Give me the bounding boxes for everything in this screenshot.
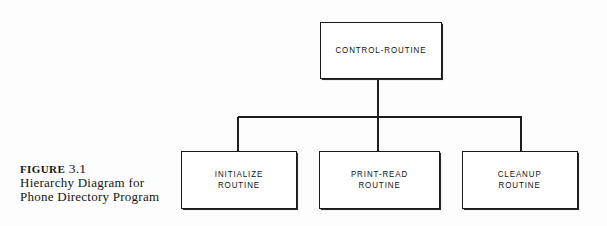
caption-line-3: Phone Directory Program	[20, 190, 180, 204]
connector-drop-right	[520, 117, 521, 152]
connector-bus	[238, 116, 522, 117]
caption-figure-line: FIGURE 3.1	[20, 162, 180, 176]
node-initialize-routine: INITIALIZE ROUTINE	[181, 151, 297, 209]
connector-drop-middle	[377, 117, 378, 152]
caption-figure-label: FIGURE	[20, 163, 65, 175]
caption-figure-number: 3.1	[69, 161, 86, 176]
caption-line-2: Hierarchy Diagram for	[20, 176, 180, 190]
node-print-read-routine: PRINT-READ ROUTINE	[319, 151, 440, 209]
node-cleanup-routine: CLEANUP ROUTINE	[462, 151, 578, 209]
node-control-routine: CONTROL-ROUTINE	[320, 22, 442, 79]
node-label-control-routine: CONTROL-ROUTINE	[335, 45, 426, 57]
figure-hierarchy-diagram: FIGURE 3.1 Hierarchy Diagram for Phone D…	[0, 0, 607, 226]
connector-root-stem	[377, 79, 378, 117]
connector-drop-left	[237, 117, 238, 152]
figure-caption: FIGURE 3.1 Hierarchy Diagram for Phone D…	[20, 162, 180, 205]
node-label-cleanup-routine: CLEANUP ROUTINE	[498, 169, 542, 192]
node-label-print-read-routine: PRINT-READ ROUTINE	[351, 169, 408, 192]
node-label-initialize-routine: INITIALIZE ROUTINE	[215, 169, 264, 192]
